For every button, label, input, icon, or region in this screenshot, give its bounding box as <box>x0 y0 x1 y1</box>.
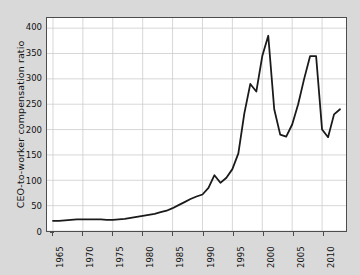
y-tick-label: 350 <box>12 49 42 57</box>
x-tick-label: 1970 <box>86 246 95 268</box>
y-tick-label: 150 <box>12 151 42 159</box>
x-tick-mark <box>82 232 83 236</box>
y-tick-label: 50 <box>12 202 42 210</box>
x-tick-label: 2010 <box>327 246 336 268</box>
x-axis-tick-labels: 1965197019751980198519901995200020052010 <box>0 236 360 275</box>
x-tick-mark <box>142 232 143 236</box>
x-tick-label: 1980 <box>146 246 155 268</box>
x-tick-mark <box>112 232 113 236</box>
x-tick-mark <box>263 232 264 236</box>
x-tick-mark <box>323 232 324 236</box>
x-tick-label: 1965 <box>56 246 65 268</box>
chart-figure: CEO-to-worker compensation ratio 0501001… <box>0 0 360 275</box>
x-tick-label: 1975 <box>116 246 125 268</box>
y-tick-label: 0 <box>12 228 42 236</box>
x-tick-mark <box>233 232 234 236</box>
x-tick-label: 1985 <box>176 246 185 268</box>
y-tick-label: 100 <box>12 177 42 185</box>
y-axis-tick-labels: 050100150200250300350400 <box>8 0 42 275</box>
x-tick-mark <box>293 232 294 236</box>
x-tick-label: 1995 <box>237 246 246 268</box>
data-series-line <box>47 18 346 231</box>
y-tick-label: 250 <box>12 100 42 108</box>
plot-area <box>46 17 347 232</box>
x-tick-label: 2005 <box>297 246 306 268</box>
x-tick-mark <box>172 232 173 236</box>
y-tick-label: 300 <box>12 74 42 82</box>
y-tick-label: 200 <box>12 126 42 134</box>
x-tick-mark <box>203 232 204 236</box>
x-tick-label: 1990 <box>207 246 216 268</box>
y-tick-label: 400 <box>12 23 42 31</box>
x-tick-mark <box>52 232 53 236</box>
x-tick-label: 2000 <box>267 246 276 268</box>
